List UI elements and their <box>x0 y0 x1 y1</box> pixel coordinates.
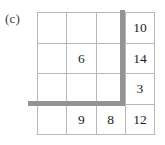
grid-cell-r1c2[interactable] <box>67 13 96 44</box>
thick-vertical-line <box>120 10 125 106</box>
figure-root: (c) 10 6 14 3 9 8 12 <box>0 0 165 145</box>
number-grid: 10 6 14 3 9 8 12 <box>37 12 155 135</box>
thick-horizontal-line <box>28 101 125 106</box>
grid-cell-r1c1[interactable] <box>38 13 67 44</box>
grid-cell-r1c4[interactable]: 10 <box>126 13 155 44</box>
grid-cell-r4c1[interactable] <box>38 105 67 136</box>
grid-cell-r3c2[interactable] <box>67 74 96 105</box>
grid-cell-r3c4[interactable]: 3 <box>126 74 155 105</box>
grid-cell-r2c1[interactable] <box>38 44 67 75</box>
grid-cell-r4c3[interactable]: 8 <box>97 105 126 136</box>
grid-cell-r4c2[interactable]: 9 <box>67 105 96 136</box>
grid-cell-r2c2[interactable]: 6 <box>67 44 96 75</box>
grid-cell-r3c1[interactable] <box>38 74 67 105</box>
grid-cell-r4c4[interactable]: 12 <box>126 105 155 136</box>
panel-label: (c) <box>5 12 20 25</box>
grid-cell-r2c4[interactable]: 14 <box>126 44 155 75</box>
